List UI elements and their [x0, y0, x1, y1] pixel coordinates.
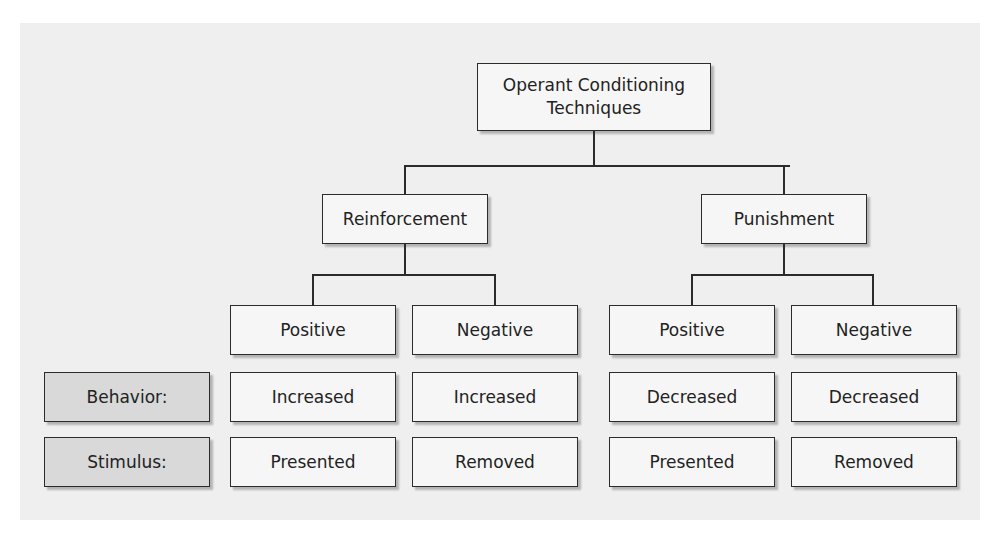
- connector: [404, 244, 406, 275]
- punishment-label: Punishment: [734, 208, 834, 231]
- connector: [312, 274, 495, 276]
- punishment-node: Punishment: [701, 194, 867, 244]
- punishment-positive-node: Positive: [609, 305, 775, 355]
- connector: [494, 274, 496, 305]
- connector: [691, 274, 693, 305]
- punishment-negative-behavior: Decreased: [791, 372, 957, 422]
- punishment-negative-node: Negative: [791, 305, 957, 355]
- stimulus-row-label: Stimulus:: [44, 437, 210, 487]
- connector: [872, 274, 874, 305]
- reinforcement-negative-behavior: Increased: [412, 372, 578, 422]
- connector: [783, 244, 785, 275]
- reinforcement-positive-node: Positive: [230, 305, 396, 355]
- connector: [404, 165, 790, 167]
- connector: [404, 165, 406, 194]
- reinforcement-positive-stimulus: Presented: [230, 437, 396, 487]
- root-label: Operant Conditioning Techniques: [499, 74, 689, 120]
- connector: [783, 165, 785, 194]
- root-node: Operant Conditioning Techniques: [477, 63, 711, 131]
- reinforcement-node: Reinforcement: [322, 194, 488, 244]
- punishment-positive-behavior: Decreased: [609, 372, 775, 422]
- punishment-negative-stimulus: Removed: [791, 437, 957, 487]
- reinforcement-positive-behavior: Increased: [230, 372, 396, 422]
- connector: [691, 274, 873, 276]
- connector: [593, 131, 595, 166]
- reinforcement-negative-node: Negative: [412, 305, 578, 355]
- reinforcement-label: Reinforcement: [343, 208, 467, 231]
- behavior-row-label: Behavior:: [44, 372, 210, 422]
- connector: [312, 274, 314, 305]
- punishment-positive-stimulus: Presented: [609, 437, 775, 487]
- reinforcement-negative-stimulus: Removed: [412, 437, 578, 487]
